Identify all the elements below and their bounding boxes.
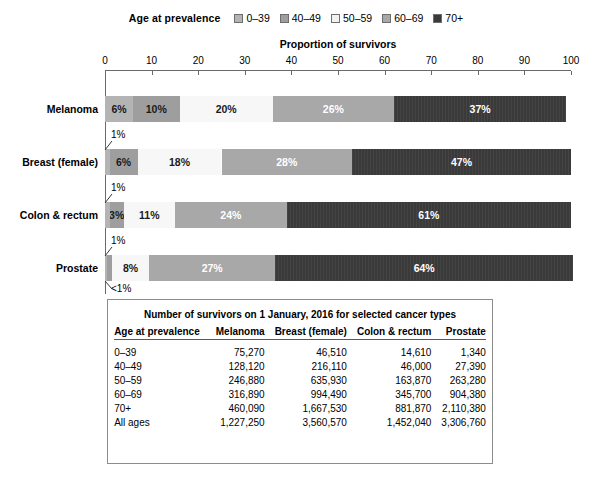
table-cell-colon: 881,870 — [347, 402, 431, 416]
bar-callout-label: 1% — [111, 129, 125, 140]
bar-segment-5059[interactable]: 20% — [180, 96, 273, 122]
table-cell-melanoma: 1,227,250 — [206, 416, 265, 430]
legend-title: Age at prevalence — [129, 12, 221, 24]
bar-row: Melanoma6%10%20%26%37% — [0, 96, 592, 122]
x-tick-label-50: 50 — [332, 55, 343, 66]
table-header-colon: Colon & rectum — [347, 326, 431, 340]
bar-segment-6069[interactable]: 26% — [273, 96, 394, 122]
bar-segment-label: 24% — [220, 209, 241, 221]
table-header-row: Age at prevalence Melanoma Breast (femal… — [114, 326, 486, 340]
table-cell-colon: 1,452,040 — [347, 416, 431, 430]
bar-segment-6069[interactable]: 27% — [149, 255, 275, 281]
bar-segment-label: 6% — [111, 103, 126, 115]
bar-segment-6069[interactable]: 24% — [175, 202, 287, 228]
table-cell-breast: 994,490 — [265, 388, 347, 402]
x-tickmark-80 — [478, 71, 479, 75]
bar-segment-label: 61% — [418, 209, 439, 221]
bar-segment-70[interactable]: 47% — [352, 149, 571, 175]
x-tickmark-40 — [291, 71, 292, 75]
bar-segment-0039[interactable]: 6% — [105, 96, 133, 122]
bar-segment-6069[interactable]: 28% — [222, 149, 352, 175]
stacked-bar-chart: Proportion of survivors 0102030405060708… — [0, 38, 592, 298]
bar-segment-label: 37% — [470, 103, 491, 115]
table-cell-breast: 3,560,570 — [265, 416, 347, 430]
bar-segment-70[interactable]: 61% — [287, 202, 571, 228]
table-cell-breast: 46,510 — [265, 340, 347, 360]
x-tickmark-70 — [431, 71, 432, 75]
x-tick-label-40: 40 — [286, 55, 297, 66]
table-cell-melanoma: 316,890 — [206, 388, 265, 402]
bar-segment-label: 27% — [202, 262, 223, 274]
legend-entry-60-69: 60–69 — [382, 12, 423, 24]
bar-callout-label: 1% — [111, 182, 125, 193]
bar-segment-label: 8% — [123, 262, 138, 274]
table-cell-age: 40–49 — [114, 360, 206, 374]
table-row: 0–3975,27046,51014,6101,340 — [114, 340, 486, 360]
bar-segment-4049[interactable]: 10% — [133, 96, 180, 122]
x-tickmark-30 — [245, 71, 246, 75]
survivors-table-panel: Number of survivors on 1 January, 2016 f… — [107, 299, 493, 464]
legend-entry-0-39: 0–39 — [234, 12, 269, 24]
x-tickmark-20 — [198, 71, 199, 75]
x-tick-label-70: 70 — [426, 55, 437, 66]
table-cell-melanoma: 128,120 — [206, 360, 265, 374]
bar-segment-label: 18% — [169, 156, 190, 168]
bar-category-label: Breast (female) — [0, 149, 98, 175]
x-tickmark-90 — [524, 71, 525, 75]
x-tickmark-60 — [385, 71, 386, 75]
bar-callout-leader-line — [104, 140, 118, 154]
bar-segment-70[interactable]: 64% — [275, 255, 573, 281]
x-tick-label-10: 10 — [146, 55, 157, 66]
table-header-prostate: Prostate — [431, 326, 486, 340]
table-row: 50–59246,880635,930163,870263,280 — [114, 374, 486, 388]
bar-row: Colon & rectum3%11%24%61% — [0, 202, 592, 228]
x-tick-label-100: 100 — [563, 55, 580, 66]
bar-callout-leader-line — [104, 193, 118, 207]
table-cell-age: 70+ — [114, 402, 206, 416]
table-cell-prostate: 27,390 — [431, 360, 486, 374]
chart-legend: Age at prevalence 0–39 40–49 50–59 60–69… — [0, 12, 592, 24]
table-cell-prostate: 1,340 — [431, 340, 486, 360]
bar-track: 6%10%20%26%37% — [105, 96, 571, 122]
legend-entry-70-plus: 70+ — [433, 12, 463, 24]
table-cell-breast: 1,667,530 — [265, 402, 347, 416]
x-tickmark-100 — [571, 71, 572, 75]
table-head: Age at prevalence Melanoma Breast (femal… — [114, 326, 486, 340]
bar-segment-70[interactable]: 37% — [394, 96, 566, 122]
bar-segment-label: 6% — [116, 156, 131, 168]
table-cell-melanoma: 75,270 — [206, 340, 265, 360]
table-cell-breast: 635,930 — [265, 374, 347, 388]
bar-segment-label: 26% — [323, 103, 344, 115]
legend-swatch-70-plus — [433, 14, 442, 23]
legend-label-70-plus: 70+ — [445, 12, 463, 24]
table-cell-prostate: 3,306,760 — [431, 416, 486, 430]
bar-segment-5059[interactable]: 11% — [124, 202, 175, 228]
bar-segment-label: 28% — [276, 156, 297, 168]
x-tick-label-30: 30 — [239, 55, 250, 66]
table-cell-colon: 46,000 — [347, 360, 431, 374]
legend-entry-40-49: 40–49 — [280, 12, 321, 24]
legend-entry-50-59: 50–59 — [331, 12, 372, 24]
legend-label-60-69: 60–69 — [394, 12, 423, 24]
table-cell-prostate: 904,380 — [431, 388, 486, 402]
x-tickmark-50 — [338, 71, 339, 75]
table-cell-prostate: 2,110,380 — [431, 402, 486, 416]
table-cell-age: 60–69 — [114, 388, 206, 402]
x-tick-label-60: 60 — [379, 55, 390, 66]
table-cell-colon: 345,700 — [347, 388, 431, 402]
table-cell-age: All ages — [114, 416, 206, 430]
table-cell-colon: 14,610 — [347, 340, 431, 360]
table-body: 0–3975,27046,51014,6101,34040–49128,1202… — [114, 340, 486, 430]
bar-track: 6%18%28%47% — [105, 149, 571, 175]
bar-segment-5059[interactable]: 18% — [138, 149, 222, 175]
x-axis-title: Proportion of survivors — [105, 38, 571, 50]
table-header-breast: Breast (female) — [265, 326, 347, 340]
bar-category-label: Colon & rectum — [0, 202, 98, 228]
survivors-table: Age at prevalence Melanoma Breast (femal… — [114, 326, 486, 430]
x-axis-tickmarks — [105, 71, 571, 75]
legend-label-50-59: 50–59 — [343, 12, 372, 24]
table-cell-age: 0–39 — [114, 340, 206, 360]
table-caption: Number of survivors on 1 January, 2016 f… — [108, 309, 492, 320]
legend-swatch-60-69 — [382, 14, 391, 23]
legend-swatch-50-59 — [331, 14, 340, 23]
